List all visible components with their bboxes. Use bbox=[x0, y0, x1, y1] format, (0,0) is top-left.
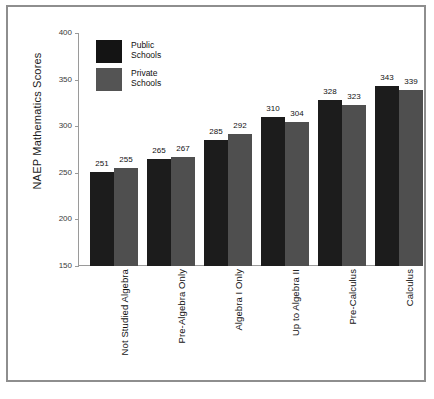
y-axis-tick-label: 300 bbox=[46, 122, 72, 130]
bar-public: 285 bbox=[204, 140, 228, 266]
bar-value-label: 323 bbox=[347, 93, 360, 101]
x-axis-category-label: Not Studied Algebra bbox=[119, 269, 130, 355]
bar-value-label: 255 bbox=[119, 156, 132, 164]
bar-value-label: 310 bbox=[266, 105, 279, 113]
y-axis-tick-mark bbox=[75, 266, 79, 267]
bar-value-label: 265 bbox=[152, 147, 165, 155]
legend-item-public: Public Schools bbox=[96, 40, 161, 63]
y-axis-tick-label: 350 bbox=[46, 76, 72, 84]
bar-public: 310 bbox=[261, 117, 285, 266]
legend-label-public-line2: Schools bbox=[131, 51, 161, 61]
legend-label-private-line2: Schools bbox=[131, 79, 161, 89]
y-axis-tick-label: 400 bbox=[46, 29, 72, 37]
x-axis-category-label: Pre-Algebra Only bbox=[176, 269, 187, 343]
bar-group: 328323 bbox=[318, 33, 366, 266]
legend-label-public: Public Schools bbox=[131, 40, 161, 60]
legend-label-private: Private Schools bbox=[131, 68, 161, 88]
x-axis-category-label: Algebra I Only bbox=[233, 269, 244, 331]
y-axis-tick-label: 200 bbox=[46, 215, 72, 223]
y-axis-tick-label: 150 bbox=[46, 262, 72, 270]
bar-public: 265 bbox=[147, 159, 171, 266]
bar-value-label: 292 bbox=[233, 122, 246, 130]
x-axis-category-label: Calculus bbox=[404, 269, 415, 306]
bar-private: 267 bbox=[171, 157, 195, 266]
bar-value-label: 304 bbox=[290, 110, 303, 118]
legend-swatch-public-icon bbox=[96, 40, 122, 63]
bar-value-label: 285 bbox=[209, 128, 222, 136]
bar-value-label: 339 bbox=[404, 78, 417, 86]
bar-private: 323 bbox=[342, 105, 366, 266]
y-axis-tick-label: 250 bbox=[46, 169, 72, 177]
x-axis-category-label: Up to Algebra II bbox=[290, 269, 301, 336]
bar-private: 255 bbox=[114, 168, 138, 266]
legend-item-private: Private Schools bbox=[96, 68, 161, 91]
bar-private: 304 bbox=[285, 122, 309, 266]
bar-private: 339 bbox=[399, 90, 423, 266]
bar-group: 310304 bbox=[261, 33, 309, 266]
y-axis-title: NAEP Mathematics Scores bbox=[31, 26, 43, 216]
bar-private: 292 bbox=[228, 134, 252, 266]
bar-public: 343 bbox=[375, 86, 399, 266]
bar-value-label: 251 bbox=[95, 160, 108, 168]
legend-swatch-private-icon bbox=[96, 68, 122, 91]
figure-frame: NAEP Mathematics Scores 1502002503003504… bbox=[6, 5, 426, 382]
bar-value-label: 343 bbox=[380, 74, 393, 82]
x-axis-category-label: Pre-Calculus bbox=[347, 269, 358, 325]
chart-legend: Public Schools Private Schools bbox=[96, 40, 161, 96]
bar-value-label: 328 bbox=[323, 88, 336, 96]
bar-value-label: 267 bbox=[176, 145, 189, 153]
bar-public: 328 bbox=[318, 100, 342, 266]
bar-group: 343339 bbox=[375, 33, 423, 266]
bar-public: 251 bbox=[90, 172, 114, 266]
bar-group: 285292 bbox=[204, 33, 252, 266]
